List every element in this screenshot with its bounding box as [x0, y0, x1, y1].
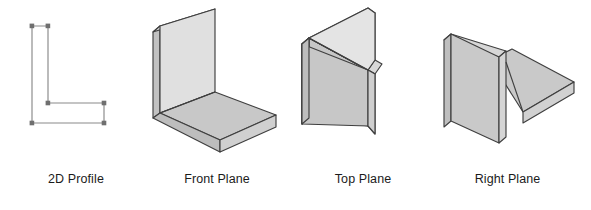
figure-right-plane[interactable]: Right Plane: [428, 0, 591, 210]
top-plane-artwork: [292, 0, 434, 165]
vertex-marker: [102, 101, 107, 106]
front-plane-artwork: [140, 0, 292, 165]
figure-label-front-plane: Front Plane: [140, 172, 292, 187]
figure-label-top-plane: Top Plane: [292, 172, 434, 187]
right-plane-svg: [428, 0, 591, 165]
front-plane-svg: [140, 0, 292, 165]
profile-outline: [32, 26, 104, 123]
near-plate-side: [302, 38, 309, 124]
profile-svg: [0, 0, 148, 165]
plane-orientation-diagram: 2D Profile: [0, 0, 591, 210]
vertical-plate-left-side: [444, 34, 451, 127]
vertical-plate-right-side: [499, 51, 506, 143]
vertex-marker: [30, 24, 35, 29]
figure-front-plane[interactable]: Front Plane: [140, 0, 292, 210]
profile-artwork: [0, 0, 148, 165]
vertical-plate-left-side: [153, 26, 160, 118]
figure-label-2d-profile: 2D Profile: [0, 172, 148, 187]
vertex-marker: [102, 121, 107, 126]
vertex-marker: [46, 101, 51, 106]
front-plane-solid: [153, 9, 276, 152]
figure-label-right-plane: Right Plane: [428, 172, 591, 187]
figure-2d-profile[interactable]: 2D Profile: [0, 0, 148, 210]
figure-top-plane[interactable]: Top Plane: [292, 0, 434, 210]
top-plane-svg: [292, 0, 434, 165]
vertex-marker: [46, 24, 51, 29]
right-plane-solid: [444, 34, 574, 150]
profile-vertex-markers: [30, 24, 107, 126]
vertex-marker: [30, 121, 35, 126]
right-plane-artwork: [428, 0, 591, 165]
near-plate-far-side: [368, 70, 375, 134]
